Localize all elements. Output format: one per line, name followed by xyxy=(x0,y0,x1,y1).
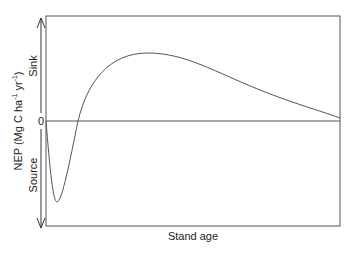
nep-curve xyxy=(46,53,340,202)
nep-chart: 0 Sink Source NEP (Mg C ha-1 yr-1) Stand… xyxy=(0,0,352,253)
source-label: Source xyxy=(27,158,39,193)
x-axis-title: Stand age xyxy=(168,230,218,242)
y-axis-title: NEP (Mg C ha-1 yr-1) xyxy=(11,71,24,170)
y-zero-label: 0 xyxy=(38,115,44,127)
sink-label: Sink xyxy=(27,55,39,77)
